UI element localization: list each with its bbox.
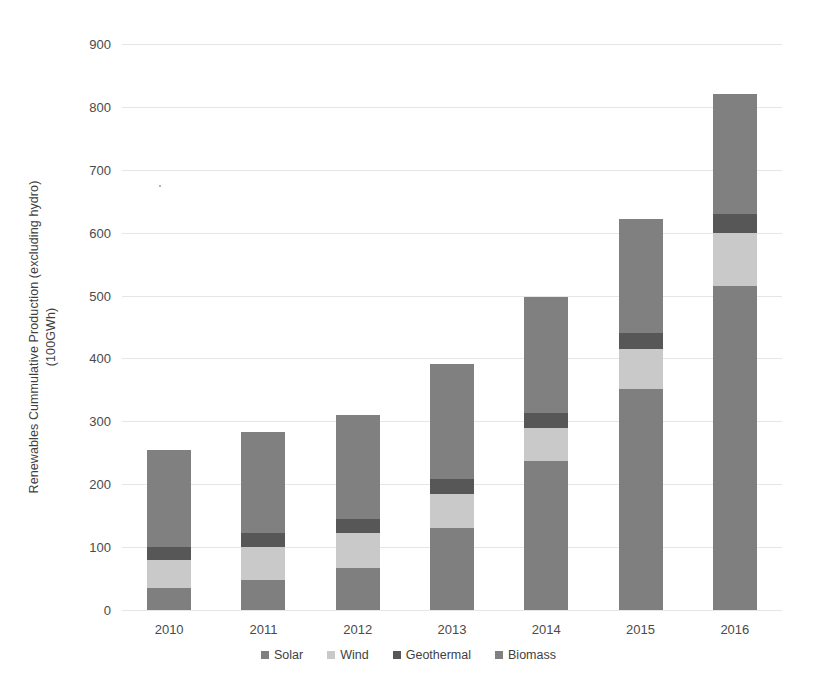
bar-segment-wind[interactable]	[430, 494, 474, 529]
legend-label: Biomass	[508, 648, 556, 662]
bar-segment-wind[interactable]	[241, 547, 285, 580]
bar-group[interactable]: 2011	[241, 432, 285, 610]
gridline: 0	[122, 610, 782, 611]
bar-stack	[713, 94, 757, 610]
legend-item-biomass[interactable]: Biomass	[495, 648, 556, 662]
bar-group[interactable]: 2015	[619, 219, 663, 610]
bar-segment-wind[interactable]	[713, 233, 757, 286]
y-tick-label: 0	[104, 603, 111, 618]
bar-segment-solar[interactable]	[713, 286, 757, 610]
bar-segment-geothermal[interactable]	[430, 479, 474, 493]
bar-segment-geothermal[interactable]	[713, 214, 757, 233]
bar-group[interactable]: 2013	[430, 363, 474, 610]
bar-stack	[241, 432, 285, 610]
bar-stack	[147, 450, 191, 610]
y-tick-label: 200	[89, 477, 111, 492]
bar-group[interactable]: 2012	[336, 415, 380, 610]
legend-label: Wind	[340, 648, 368, 662]
bar-segment-geothermal[interactable]	[336, 519, 380, 533]
y-tick-label: 700	[89, 162, 111, 177]
x-tick-label: 2012	[343, 622, 372, 637]
y-tick-label: 400	[89, 351, 111, 366]
bar-segment-biomass[interactable]	[336, 415, 380, 519]
x-tick-label: 2014	[532, 622, 561, 637]
bar-segment-biomass[interactable]	[619, 219, 663, 333]
bar-group[interactable]: 2016	[713, 94, 757, 610]
bar-group[interactable]: 2010	[147, 450, 191, 610]
x-tick-label: 2016	[720, 622, 749, 637]
legend-item-geothermal[interactable]: Geothermal	[393, 648, 471, 662]
bar-segment-geothermal[interactable]	[619, 333, 663, 349]
bar-segment-wind[interactable]	[524, 428, 568, 461]
bar-segment-geothermal[interactable]	[241, 533, 285, 547]
legend-swatch-icon	[261, 651, 269, 659]
legend-item-solar[interactable]: Solar	[261, 648, 303, 662]
x-tick-label: 2011	[249, 622, 277, 637]
scan-artifact-speck	[159, 185, 161, 187]
y-tick-label: 900	[89, 37, 111, 52]
legend-item-wind[interactable]: Wind	[327, 648, 368, 662]
bar-segment-wind[interactable]	[147, 560, 191, 588]
bar-stack	[430, 364, 474, 610]
y-axis-title: Renewables Cummulative Production (exclu…	[26, 127, 60, 547]
bar-segment-solar[interactable]	[524, 461, 568, 610]
legend-label: Solar	[274, 648, 303, 662]
bar-segment-solar[interactable]	[430, 528, 474, 610]
legend-swatch-icon	[495, 651, 503, 659]
x-tick-label: 2013	[438, 622, 467, 637]
bar-segment-solar[interactable]	[619, 389, 663, 610]
bars-layer: 2010201120122013201420152016	[122, 44, 782, 610]
bar-segment-biomass[interactable]	[241, 432, 285, 533]
x-tick-label: 2010	[155, 622, 184, 637]
bar-segment-biomass[interactable]	[147, 450, 191, 547]
bar-segment-biomass[interactable]	[430, 364, 474, 480]
y-tick-label: 100	[89, 540, 111, 555]
bar-segment-biomass[interactable]	[713, 94, 757, 213]
bar-stack	[619, 219, 663, 610]
bar-group[interactable]: 2014	[524, 297, 568, 610]
bar-stack	[336, 415, 380, 610]
bar-segment-solar[interactable]	[336, 568, 380, 610]
chart-legend: SolarWindGeothermalBiomass	[0, 648, 817, 662]
legend-swatch-icon	[393, 651, 401, 659]
stacked-bar-chart: Renewables Cummulative Production (exclu…	[0, 0, 817, 691]
bar-segment-wind[interactable]	[336, 533, 380, 568]
bar-segment-wind[interactable]	[619, 349, 663, 389]
plot-area: 0100200300400500600700800900 20102011201…	[122, 44, 782, 610]
bar-segment-geothermal[interactable]	[147, 547, 191, 560]
bar-segment-solar[interactable]	[147, 588, 191, 610]
y-tick-label: 300	[89, 414, 111, 429]
y-tick-label: 600	[89, 225, 111, 240]
x-tick-label: 2015	[626, 622, 655, 637]
legend-swatch-icon	[327, 651, 335, 659]
y-tick-label: 500	[89, 288, 111, 303]
bar-stack	[524, 297, 568, 610]
bar-segment-solar[interactable]	[241, 580, 285, 610]
legend-label: Geothermal	[406, 648, 471, 662]
bar-segment-biomass[interactable]	[524, 297, 568, 413]
bar-segment-geothermal[interactable]	[524, 413, 568, 427]
y-tick-label: 800	[89, 99, 111, 114]
